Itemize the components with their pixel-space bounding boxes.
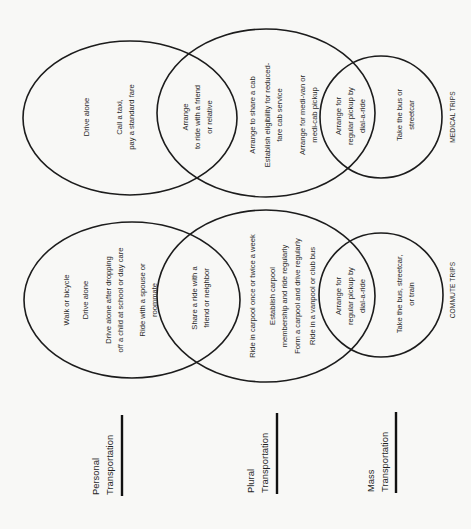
medical-trips-label: MEDICAL TRIPS: [449, 91, 456, 143]
commute-plural-line: Ride in carpool once or twice a week: [248, 234, 257, 358]
commute-overlap1-line: friend or neighbor: [202, 268, 211, 328]
medical-trips-group: Drive alone Call a taxi, pay a standard …: [23, 29, 456, 197]
commute-personal-line: Drive alone: [81, 281, 90, 319]
medical-overlap1-line: or relative: [205, 100, 214, 133]
venn-diagram-canvas: Drive alone Call a taxi, pay a standard …: [0, 0, 471, 529]
legend-personal-line2: Transportation: [104, 435, 115, 495]
commute-overlap1-line: Share a ride with a: [190, 266, 199, 330]
legend-plural: Plural Transportation: [245, 413, 277, 494]
legend-plural-line2: Transportation: [259, 433, 270, 493]
commute-overlap2-line: dial-a-ride: [358, 279, 367, 313]
legend-personal: Personal Transportation: [90, 415, 122, 496]
medical-plural-line: fare cab service: [275, 88, 284, 142]
medical-personal-line: pay a standard fare: [127, 84, 136, 149]
medical-overlap2-line: dial-a-ride: [358, 99, 367, 133]
legend-mass-line2: Transportation: [379, 432, 390, 492]
commute-mass-line: Take the bus, streetcar,: [395, 255, 404, 334]
commute-plural-line: membership and ride regularly: [280, 245, 289, 348]
medical-plural-line: Arrange to share a cab: [248, 76, 257, 153]
commute-trips-label: COMMUTE TRIPS: [449, 261, 456, 318]
legend-mass-line1: Mass: [365, 469, 376, 492]
commute-overlap2-line: Arrange for: [334, 277, 343, 315]
commute-personal-line: roommate: [150, 283, 159, 317]
medical-mass-line: streetcar: [407, 100, 416, 130]
venn-diagram-svg: Drive alone Call a taxi, pay a standard …: [0, 0, 471, 529]
commute-personal-line: Drive alone after dropping: [104, 256, 113, 343]
legend-personal-line1: Personal: [90, 458, 101, 495]
commute-plural-line: Ride in a vanpool or club bus: [308, 247, 317, 345]
medical-plural-line: medi-cab pickup: [310, 87, 319, 142]
commute-plural-line: Form a carpool and drive regularly: [293, 238, 302, 354]
medical-plural-line: Establish eligibility for reduced-: [263, 62, 272, 167]
commute-personal-line: Ride with a spouse or: [138, 263, 147, 336]
legend-plural-line1: Plural: [245, 469, 256, 493]
medical-overlap2-line: regular pickup by: [346, 87, 355, 145]
medical-personal-line: Call a taxi,: [115, 99, 124, 134]
commute-plural-line: Establish carpool: [268, 267, 277, 325]
commute-personal-line: Walk or bicycle: [62, 275, 71, 326]
medical-overlap2-line: Arrange for: [334, 97, 343, 135]
medical-plural-line: Arrange for medi-van or: [298, 74, 307, 155]
commute-mass-line: or train: [407, 282, 416, 306]
commute-trips-group: Walk or bicycle Drive alone Drive alone …: [24, 210, 456, 382]
medical-personal-line: Drive alone: [82, 98, 91, 136]
medical-mass-line: Take the bus or: [395, 89, 404, 141]
commute-overlap2-line: regular pickup by: [346, 267, 355, 325]
medical-overlap1-line: Arrange: [181, 103, 190, 130]
commute-personal-line: off a child at school or day care: [116, 248, 125, 353]
medical-overlap1-line: to ride with a friend: [193, 85, 202, 149]
legend: Personal Transportation Plural Transport…: [90, 412, 396, 496]
legend-mass: Mass Transportation: [365, 412, 396, 493]
